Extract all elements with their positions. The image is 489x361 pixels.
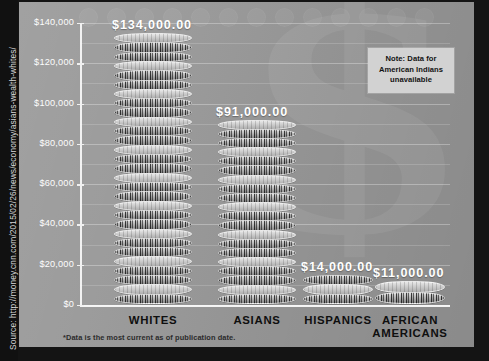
note-callout: Note: Data for American Indians unavaila…: [368, 48, 454, 93]
coin-stack: [218, 121, 296, 304]
y-tick-mark: [77, 184, 84, 185]
y-axis-tick-label: $0: [22, 299, 74, 309]
coin-icon: [375, 292, 445, 304]
y-tick-mark: [77, 104, 84, 105]
y-axis-tick-label: $140,000: [22, 17, 74, 27]
coin-icon: [218, 294, 296, 304]
y-axis-tick-label: $60,000: [22, 178, 74, 188]
source-url-text: Source: http://money.cnn.com/2015/02/26/…: [8, 4, 18, 350]
bar-value-label: $91,000.00: [216, 105, 288, 119]
coin-icon: [114, 219, 192, 229]
note-line-2: American Indians: [373, 65, 449, 76]
y-axis-tick-label: $20,000: [22, 259, 74, 269]
chart-screenshot: Source: http://money.cnn.com/2015/02/26/…: [0, 0, 489, 361]
source-strip: Source: http://money.cnn.com/2015/02/26/…: [0, 0, 18, 361]
chart-panel: $ $0$20,000$40,000$60,000$80,000$100,000…: [19, 2, 474, 347]
y-axis-tick-label: $100,000: [22, 98, 74, 108]
bar-value-label: $134,000.00: [112, 18, 192, 32]
y-axis-tick-label: $40,000: [22, 218, 74, 228]
bar-value-label: $14,000.00: [301, 260, 373, 274]
category-label-line: AMERICANS: [355, 327, 465, 340]
coin-stack: [375, 282, 445, 304]
y-axis-tick-label: $120,000: [22, 57, 74, 67]
gridline-major: [80, 305, 450, 306]
footnote-text: *Data is the most current as of publicat…: [63, 333, 235, 342]
y-tick-mark: [77, 305, 84, 306]
category-label-line: WHITES: [98, 314, 208, 327]
x-axis-category-label: AFRICANAMERICANS: [355, 314, 465, 340]
y-tick-mark: [77, 144, 84, 145]
y-tick-mark: [77, 63, 84, 64]
y-axis-tick-label: $80,000: [22, 138, 74, 148]
coin-icon: [303, 294, 373, 304]
coin-stack: [303, 276, 373, 304]
bar-value-label: $11,000.00: [373, 266, 444, 280]
x-axis-category-label: WHITES: [98, 314, 208, 327]
y-tick-mark: [77, 23, 84, 24]
y-tick-mark: [77, 265, 84, 266]
coin-stack: [114, 34, 192, 304]
coin-icon: [114, 294, 192, 304]
coin-icon: [114, 70, 192, 80]
note-line-1: Note: Data for: [373, 54, 449, 65]
note-line-3: unavailable: [373, 75, 449, 86]
category-label-line: AFRICAN: [355, 314, 465, 327]
y-tick-mark: [77, 224, 84, 225]
